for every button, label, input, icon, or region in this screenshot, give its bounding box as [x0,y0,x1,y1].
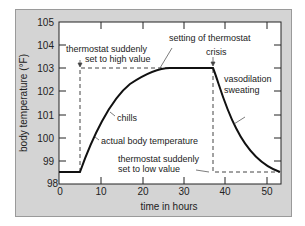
annotation-chills: chills [117,113,138,123]
x-tick-label: 40 [219,186,231,197]
x-tick-label: 50 [261,186,273,197]
y-tick-label: 100 [37,133,54,144]
annotation-thermostat-low-line1: thermostat suddenly [118,154,200,164]
y-tick-label: 105 [37,17,54,28]
y-axis-title: body temperature (°F) [18,54,29,152]
annotation-thermostat-low-line2: set to low value [118,164,180,174]
annotation-thermostat-high-line1: thermostat suddenly [66,44,148,54]
x-axis-title: time in hours [140,201,197,212]
annotation-sweating: sweating [224,85,260,95]
y-tick-label: 103 [37,63,54,74]
y-tick-label: 99 [43,156,55,167]
x-tick-label: 20 [137,186,149,197]
annotation-vasodilation: vasodilation [224,74,272,84]
annotation-thermostat-high-line2: set to high value [85,54,151,64]
annotation-crisis: crisis [206,47,227,57]
y-tick-label: 102 [37,86,54,97]
y-tick-label: 101 [37,110,54,121]
annotation-setting-of-thermostat: setting of thermostat [169,33,251,43]
annotation-actual-body-temperature: actual body temperature [101,136,198,146]
x-tick-label: 10 [95,186,107,197]
y-tick-label: 104 [37,40,54,51]
fever-chart: 105 104 103 102 101 100 99 98 0 10 20 30… [0,0,305,226]
x-tick-label: 30 [178,186,190,197]
x-tick-label: 0 [57,186,63,197]
